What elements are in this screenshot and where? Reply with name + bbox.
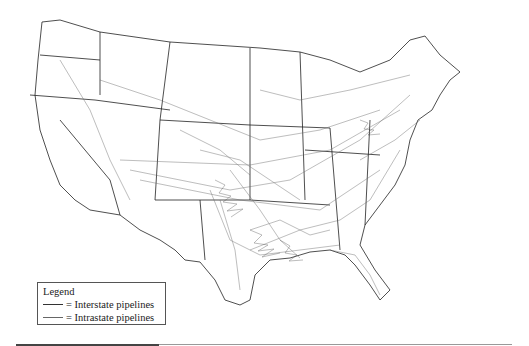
legend-label-intrastate: = Intrastate pipelines (66, 311, 154, 324)
bottom-rule-light (159, 344, 512, 345)
legend-label-interstate: = Interstate pipelines (66, 298, 154, 311)
legend-title: Legend (43, 285, 160, 298)
legend-item-intrastate: = Intrastate pipelines (43, 311, 160, 324)
intrastate-line-swatch (43, 317, 63, 318)
pipelines (60, 60, 420, 295)
map-legend: Legend = Interstate pipelines = Intrasta… (37, 282, 166, 325)
dense-clusters (215, 120, 380, 261)
us-outline (30, 20, 460, 305)
legend-item-interstate: = Interstate pipelines (43, 298, 160, 311)
interstate-line-swatch (43, 304, 63, 305)
